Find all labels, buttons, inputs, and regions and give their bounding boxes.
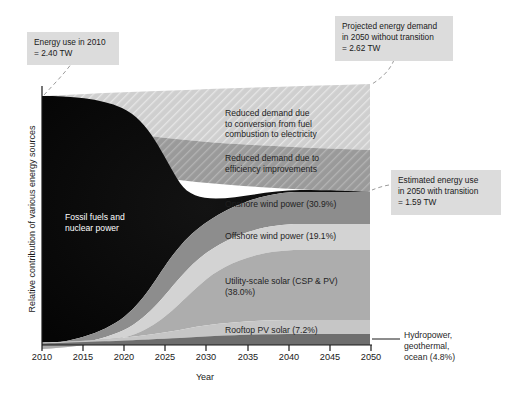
leader-line-2050-without bbox=[372, 60, 394, 84]
band-label-efficiency: Reduced demand due to efficiency improve… bbox=[225, 153, 385, 174]
x-tick-label-2025: 2025 bbox=[148, 352, 182, 362]
band-label-offshore-wind: Offshore wind power (19.1%) bbox=[225, 231, 385, 242]
energy-transition-stacked-area-chart: Energy use in 2010 = 2.40 TW Projected e… bbox=[0, 0, 513, 401]
leader-line-2050-with bbox=[372, 185, 389, 190]
x-tick-label-2010: 2010 bbox=[25, 352, 59, 362]
callout-energy-use-2010: Energy use in 2010 = 2.40 TW bbox=[27, 32, 119, 65]
band-label-onshore-wind: Onshore wind power (30.9%) bbox=[225, 199, 385, 210]
callout-estimated-use-2050: Estimated energy use in 2050 with transi… bbox=[391, 170, 501, 215]
band-label-conversion: Reduced demand due to conversion from fu… bbox=[225, 108, 385, 140]
x-tick-label-2030: 2030 bbox=[189, 352, 223, 362]
band-label-utility-solar: Utility-scale solar (CSP & PV) (38.0%) bbox=[225, 276, 385, 297]
x-tick-label-2015: 2015 bbox=[66, 352, 100, 362]
band-label-fossil-nuclear: Fossil fuels and nuclear power bbox=[65, 212, 185, 233]
y-axis-title: Relative contribution of various energy … bbox=[27, 89, 37, 349]
x-tick-label-2050: 2050 bbox=[354, 352, 388, 362]
band-label-hydro-geothermal-ocean: Hydropower, geothermal, ocean (4.8%) bbox=[404, 330, 508, 362]
x-tick-label-2035: 2035 bbox=[231, 352, 265, 362]
x-tick-label-2020: 2020 bbox=[107, 352, 141, 362]
x-tick-label-2045: 2045 bbox=[313, 352, 347, 362]
band-label-rooftop-solar: Rooftop PV solar (7.2%) bbox=[225, 325, 385, 336]
callout-projected-demand-2050: Projected energy demand in 2050 without … bbox=[335, 16, 453, 61]
x-axis-title: Year bbox=[40, 372, 370, 382]
x-tick-label-2040: 2040 bbox=[272, 352, 306, 362]
x-axis-ticks bbox=[42, 345, 371, 351]
